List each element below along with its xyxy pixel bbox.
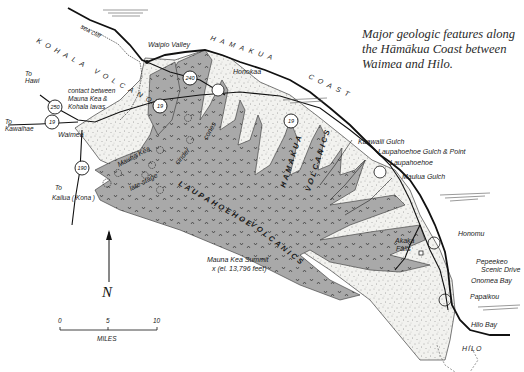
svg-text:250: 250 — [49, 104, 60, 110]
map-caption: Major geologic features along the Hāmāku… — [362, 27, 522, 72]
honokaa-marker — [212, 84, 224, 96]
akaka-falls-label-2: Falls — [396, 245, 411, 252]
contact-label-2: Mauna Kea & — [68, 95, 107, 102]
svg-text:240: 240 — [184, 75, 195, 81]
svg-text:0: 0 — [58, 317, 62, 324]
akaka-falls-marker — [419, 251, 423, 255]
akaka-falls-label-1: Akaka — [394, 237, 415, 244]
highway-250-shield: 250 — [48, 100, 62, 114]
laupahoehoe-gulch-label: Laupahoehoe Gulch & Point — [378, 148, 467, 156]
waipio-valley-label: Waipio Valley — [148, 41, 191, 49]
to-kailua-label-2: Kailua ( Kona ) — [52, 194, 95, 202]
pepeekeo-label-2: Scenic Drive — [481, 266, 520, 273]
summit-label-2: x (el. 13,796 feet) — [211, 265, 266, 273]
highway-190-shield: 190 — [75, 161, 89, 175]
laupahoehoe-label-town: Laupahoehoe — [390, 159, 433, 167]
contact-label-1: contact between — [68, 87, 116, 94]
svg-text:5: 5 — [106, 317, 110, 324]
waipio-marker — [145, 60, 149, 64]
honomu-label: Honomu — [458, 230, 485, 237]
svg-text:MILES: MILES — [97, 335, 117, 342]
to-hawi-label-1: To — [25, 70, 32, 77]
svg-text:19: 19 — [157, 103, 163, 109]
svg-text:190: 190 — [77, 165, 87, 171]
svg-text:19: 19 — [49, 119, 55, 125]
summit-label-1: Mauna Kea Summit — [207, 256, 270, 263]
kaawalii-gulch-label: Kaawalii Gulch — [358, 138, 404, 145]
waimea-label: Waimea — [58, 131, 84, 138]
hilo-bay-label: Hilo Bay — [471, 321, 498, 329]
highway-240-shield: 240 — [183, 71, 197, 85]
to-hawi-label-2: Hawi — [25, 77, 40, 84]
maulua-gulch-label: Maulua Gulch — [402, 173, 445, 180]
honokaa-label: Honokaa — [233, 68, 261, 75]
north-arrow: N — [101, 230, 113, 300]
onomea-bay-label: Onomea Bay — [471, 277, 512, 285]
contact-label-3: Kohala lavas — [68, 103, 106, 110]
svg-text:10: 10 — [153, 317, 161, 324]
highway-19-east-shield: 19 — [284, 114, 298, 128]
to-kawaihae-label-2: Kawaihae — [5, 125, 34, 132]
laupahoehoe-marker — [374, 166, 386, 178]
highway-19-west-shield: 19 — [45, 115, 59, 129]
scale-bar: 0 5 10 MILES — [58, 317, 161, 342]
papaikou-label: Papaikou — [470, 293, 499, 301]
to-kailua-label-1: To — [55, 184, 62, 191]
svg-text:N: N — [101, 284, 113, 300]
to-kawaihae-label-1: To — [5, 118, 12, 125]
svg-text:19: 19 — [288, 118, 294, 124]
pepeekeo-label-1: Pepeekeo — [476, 258, 508, 266]
sea-cliff-label: sea cliff — [80, 23, 104, 40]
